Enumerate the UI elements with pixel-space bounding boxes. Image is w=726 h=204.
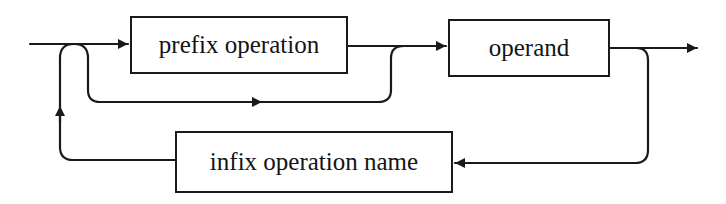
syntax-diagram: prefix operation operand infix operation… xyxy=(0,0,726,204)
operand-box: operand xyxy=(448,19,610,77)
infix-to-entry-line xyxy=(60,112,175,160)
prefix-operation-label: prefix operation xyxy=(159,31,319,59)
prefix-operation-box: prefix operation xyxy=(130,16,348,74)
infix-operation-name-label: infix operation name xyxy=(210,148,418,176)
operand-label: operand xyxy=(489,34,570,62)
infix-operation-name-box: infix operation name xyxy=(175,131,453,193)
entry-loop-curve xyxy=(60,44,74,106)
